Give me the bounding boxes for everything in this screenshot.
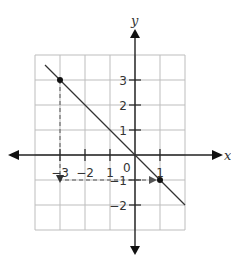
y-tick-label: −1 — [109, 174, 127, 188]
data-point — [57, 77, 63, 83]
x-tick-label: 1 — [156, 166, 164, 180]
y-tick-label: −2 — [109, 199, 127, 213]
coordinate-plane: −3−211321−1−2 x y 0 — [0, 0, 231, 264]
y-axis-label: y — [130, 13, 139, 28]
x-axis-arrow-left-icon — [8, 150, 19, 160]
y-tick-label: 1 — [119, 124, 127, 138]
y-tick-label: 3 — [119, 74, 127, 88]
y-tick-label: 2 — [119, 99, 127, 113]
x-tick-label: −3 — [51, 166, 69, 180]
x-axis-label: x — [224, 148, 231, 163]
x-tick-label: −2 — [76, 166, 94, 180]
y-axis-arrow-down-icon — [130, 246, 140, 255]
origin-label: 0 — [123, 161, 131, 175]
y-axis-arrow-up-icon — [130, 29, 140, 38]
axes — [8, 29, 223, 255]
x-axis-arrow-right-icon — [212, 150, 223, 160]
tick-labels: −3−211321−1−2 — [51, 74, 164, 213]
